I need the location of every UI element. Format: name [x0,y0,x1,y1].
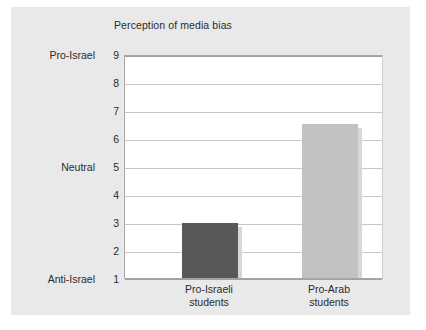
y-axis-label-anti-israel: Anti-Israel [25,273,95,285]
x-axis-label-line: Pro-Arab [269,283,389,296]
y-axis-tick-labels: 123456789 [93,55,119,279]
chart-title: Perception of media bias [114,19,232,31]
y-tick-label-9: 9 [97,49,119,61]
x-axis-label-pro-arab-students: Pro-Arabstudents [269,283,389,309]
y-axis-label-pro-israel: Pro-Israel [25,49,95,61]
y-tick-label-6: 6 [97,133,119,145]
gridline-1 [125,279,382,280]
y-tick-label-3: 3 [97,217,119,229]
x-axis-label-line: students [149,296,269,309]
y-axis-label-neutral: Neutral [25,161,95,173]
plot-area [124,55,383,279]
x-axis-label-line: students [269,296,389,309]
bars-layer [125,56,382,278]
y-tick-label-1: 1 [97,273,119,285]
y-tick-label-2: 2 [97,245,119,257]
y-tick-label-8: 8 [97,77,119,89]
bar-pro-arab-students [302,124,358,278]
y-tick-label-7: 7 [97,105,119,117]
y-tick-label-4: 4 [97,189,119,201]
x-axis-label-line: Pro-Israeli [149,283,269,296]
x-axis-label-pro-israeli-students: Pro-Israelistudents [149,283,269,309]
bar-pro-israeli-students [182,223,238,278]
y-tick-label-5: 5 [97,161,119,173]
x-axis-labels: Pro-IsraelistudentsPro-Arabstudents [124,283,383,317]
y-axis-category-labels: Pro-IsraelNeutralAnti-Israel [25,55,95,279]
figure-panel: Perception of media bias Pro-IsraelNeutr… [11,7,410,315]
